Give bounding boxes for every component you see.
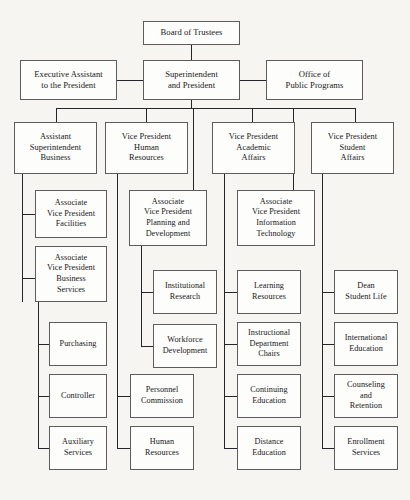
- node-workforce-development[interactable]: Workforce Development: [153, 324, 217, 368]
- node-dean-student-life[interactable]: Dean Student Life: [334, 270, 398, 314]
- connector-bus-to-vp-academic-affairs: [252, 108, 253, 122]
- node-vp-human-resources[interactable]: Vice President Human Resources: [105, 122, 188, 174]
- connector-stub-controller: [38, 396, 49, 397]
- connector-stub-continuing-education: [224, 396, 237, 397]
- connector-spine-avp-business-services: [38, 300, 39, 448]
- node-instructional-department-chairs[interactable]: Instructional Department Chairs: [237, 322, 301, 366]
- node-counseling-and-retention[interactable]: Counseling and Retention: [334, 374, 398, 418]
- org-chart: Board of Trustees Executive Assistant to…: [0, 0, 410, 500]
- node-assistant-superintendent-business[interactable]: Assistant Superintendent Business: [14, 122, 97, 174]
- node-avp-planning-development[interactable]: Associate Vice President Planning and De…: [129, 190, 207, 246]
- connector-bus-to-assistant-superintendent: [56, 108, 57, 122]
- node-board-of-trustees[interactable]: Board of Trustees: [143, 21, 240, 45]
- node-avp-business-services[interactable]: Associate Vice President Business Servic…: [35, 246, 107, 302]
- connector-spine-assistant-superintendent: [22, 174, 23, 302]
- node-human-resources[interactable]: Human Resources: [130, 426, 194, 470]
- connector-stub-institutional-research: [141, 292, 153, 293]
- connector-stub-avp-business-services: [22, 278, 35, 279]
- connector-stub-dean-student-life: [322, 292, 334, 293]
- connector-spine-vp-student-affairs: [322, 174, 323, 448]
- node-purchasing[interactable]: Purchasing: [49, 322, 107, 366]
- connector-stub-learning-resources: [224, 292, 237, 293]
- connector-stub-distance-education: [224, 448, 237, 449]
- connector-spine-avp-planning-development: [141, 246, 142, 346]
- connector-stub-workforce-development: [141, 346, 153, 347]
- connector-stub-auxiliary-services: [38, 448, 49, 449]
- node-vp-academic-affairs[interactable]: Vice President Academic Affairs: [212, 122, 295, 174]
- node-controller[interactable]: Controller: [49, 374, 107, 418]
- connector-stub-purchasing: [38, 344, 49, 345]
- connector-stub-international-education: [322, 344, 334, 345]
- connector-stub-human-resources: [117, 448, 130, 449]
- connector-bus-to-vp-human-resources: [146, 108, 147, 122]
- node-institutional-research[interactable]: Institutional Research: [153, 270, 217, 314]
- connector-stub-personnel-commission: [117, 396, 130, 397]
- connector-bus-to-vp-student-affairs: [355, 108, 356, 122]
- connector-stub-enrollment-services: [322, 448, 334, 449]
- connector-stub-counseling-and-retention: [322, 396, 334, 397]
- connector-superintendent-to-executive-assistant: [117, 80, 143, 81]
- connector-spine-vp-human-resources: [117, 174, 118, 448]
- node-executive-assistant[interactable]: Executive Assistant to the President: [20, 60, 117, 100]
- node-vp-student-affairs[interactable]: Vice President Student Affairs: [311, 122, 394, 174]
- connector-bus-to-avp-planning-development: [193, 108, 194, 190]
- node-auxiliary-services[interactable]: Auxiliary Services: [49, 426, 107, 470]
- node-continuing-education[interactable]: Continuing Education: [237, 374, 301, 418]
- node-avp-information-technology[interactable]: Associate Vice President Information Tec…: [237, 190, 315, 246]
- connector-board-to-superintendent: [191, 45, 192, 60]
- connector-spine-vp-academic-affairs: [224, 174, 225, 448]
- node-learning-resources[interactable]: Learning Resources: [237, 270, 301, 314]
- node-distance-education[interactable]: Distance Education: [237, 426, 301, 470]
- connector-superintendent-to-office-public-programs: [240, 80, 266, 81]
- connector-stub-avp-facilities: [22, 214, 35, 215]
- node-office-public-programs[interactable]: Office of Public Programs: [266, 60, 363, 100]
- connector-main-bus: [56, 108, 355, 109]
- node-international-education[interactable]: International Education: [334, 322, 398, 366]
- node-avp-facilities[interactable]: Associate Vice President Facilities: [35, 190, 107, 238]
- connector-stub-instructional-department-chairs: [224, 344, 237, 345]
- node-personnel-commission[interactable]: Personnel Commission: [130, 374, 194, 418]
- node-enrollment-services[interactable]: Enrollment Services: [334, 426, 398, 470]
- node-superintendent[interactable]: Superintendent and President: [143, 60, 240, 100]
